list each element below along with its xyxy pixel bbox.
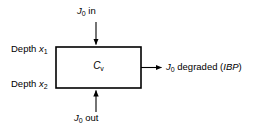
compartment-box-label: Cv	[0, 61, 197, 71]
depth-lower-label: Depth x2	[11, 79, 48, 89]
depth-lower-text: Depth	[11, 78, 39, 89]
inflow-text: in	[86, 5, 96, 16]
degraded-close-paren: )	[239, 61, 242, 72]
outflow-text: out	[83, 112, 99, 123]
depth-upper-text: Depth	[11, 43, 39, 54]
outflow-subscript: 0	[79, 117, 83, 124]
outflow-label: J0 out	[74, 113, 99, 123]
inflow-label: J0 in	[77, 6, 96, 16]
compartment-subscript: v	[100, 65, 104, 72]
inflow-subscript: 0	[82, 10, 86, 17]
depth-upper-subscript: 1	[44, 48, 48, 55]
depth-upper-label: Depth x1	[11, 44, 48, 54]
depth-lower-subscript: 2	[44, 83, 48, 90]
diagram-canvas: J0 in J0 out J0 degraded (IBP) Depth x1 …	[0, 0, 263, 133]
degraded-compound: IBP	[223, 61, 238, 72]
